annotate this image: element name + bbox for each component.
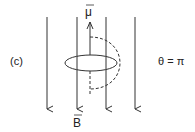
- mu-label: μ: [85, 5, 92, 19]
- angle-label: θ = π: [158, 55, 184, 67]
- b-label: B: [73, 116, 81, 130]
- magnetic-field-lines: [47, 17, 135, 109]
- current-loop: [65, 55, 117, 71]
- panel-label: (c): [10, 55, 23, 67]
- dashed-rotation-arc: [90, 37, 120, 89]
- mu-vector-arrow: [87, 22, 93, 55]
